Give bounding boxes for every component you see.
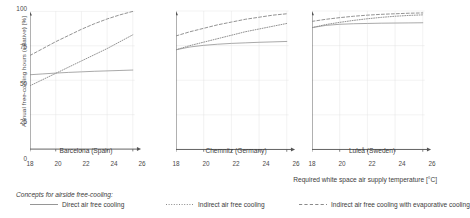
legend-swatch-solid — [30, 201, 58, 208]
x-axis-label: Required white space air supply temperat… — [0, 176, 437, 183]
x-tick-label: 22 — [368, 160, 375, 167]
x-tick-label: 20 — [338, 160, 345, 167]
y-tick-label: 75 — [20, 42, 27, 49]
x-tick-label: 24 — [110, 160, 117, 167]
legend-title: Concepts for airside free-cooling: — [16, 191, 447, 198]
x-tick-label: 22 — [82, 160, 89, 167]
y-tick-label: 25 — [20, 117, 27, 124]
x-tick-label: 26 — [428, 160, 435, 167]
legend-item-0[interactable]: Direct air free cooling — [30, 201, 124, 208]
y-tick-label: 50 — [20, 80, 27, 87]
legend-swatch-dashed — [299, 201, 327, 208]
legend-item-2[interactable]: Indirect air free cooling with evaporati… — [299, 201, 470, 208]
panel-group: 02550751001820222426Barcelona (Spain)182… — [0, 0, 447, 178]
x-tick-label: 18 — [308, 160, 315, 167]
panel-1: 02550751001820222426Barcelona (Spain) — [30, 8, 142, 176]
x-tick-label: 24 — [398, 160, 405, 167]
x-tick-label: 20 — [202, 160, 209, 167]
x-tick-label: 26 — [138, 160, 145, 167]
panel-2: 1820222426Chemnitz (Germany) — [176, 8, 296, 176]
panel-3: 1820222426Luleå (Sweden) — [312, 8, 432, 176]
plot-area — [30, 8, 142, 158]
x-tick-label: 20 — [54, 160, 61, 167]
x-tick-label: 18 — [172, 160, 179, 167]
x-tick-label: 22 — [232, 160, 239, 167]
legend-items: Direct air free coolingIndirect air free… — [16, 201, 447, 213]
panel-title: Luleå (Sweden) — [312, 147, 432, 154]
x-tick-label: 18 — [26, 160, 33, 167]
legend-swatch-dotted — [166, 201, 194, 208]
legend-label: Indirect air free cooling with evaporati… — [331, 201, 470, 208]
y-tick-label: 100 — [16, 5, 27, 12]
plot-area — [312, 8, 432, 158]
legend: Concepts for airside free-cooling: Direc… — [16, 191, 447, 213]
x-tick-label: 24 — [262, 160, 269, 167]
legend-item-1[interactable]: Indirect air free cooling — [166, 201, 265, 208]
legend-label: Direct air free cooling — [62, 201, 124, 208]
legend-label: Indirect air free cooling — [198, 201, 265, 208]
x-tick-label: 26 — [292, 160, 299, 167]
panel-title: Barcelona (Spain) — [30, 147, 142, 154]
panel-title: Chemnitz (Germany) — [176, 147, 296, 154]
plot-area — [176, 8, 296, 158]
